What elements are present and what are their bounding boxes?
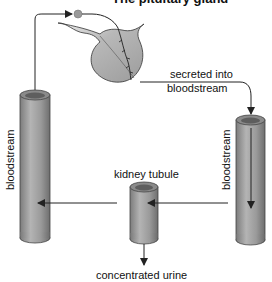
secreted-label-line1: secreted into [170,68,233,81]
kidney-tubule [130,182,158,244]
right-blood-vessel [236,115,265,245]
diagram-title: The pituitary gland [112,0,228,6]
kidney-tubule-label: kidney tubule [114,168,179,181]
concentrated-urine-label: concentrated urine [96,269,187,282]
right-vessel-label: bloodstream [220,129,233,190]
pituitary-gland [58,23,144,82]
secreted-label-line2: bloodstream [167,82,228,95]
vessel-to-gland-arrow [35,14,72,92]
left-blood-vessel [20,90,50,243]
hormone-dot-icon [74,10,82,18]
left-vessel-label: bloodstream [4,129,17,190]
